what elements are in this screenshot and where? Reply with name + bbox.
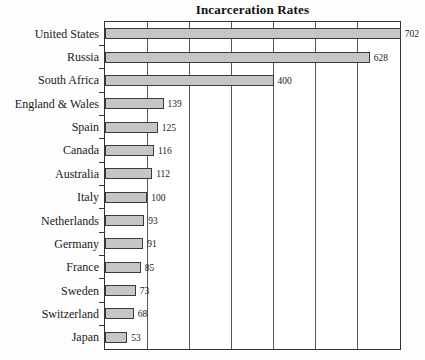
bar	[105, 262, 141, 273]
bar	[105, 332, 127, 343]
category-label: United States	[0, 27, 99, 41]
category-label: Germany	[0, 237, 99, 251]
category-label: Russia	[0, 50, 99, 64]
value-label: 112	[156, 169, 170, 179]
bar	[105, 145, 154, 156]
category-label: Japan	[0, 330, 99, 344]
gridline	[231, 22, 232, 349]
bar	[105, 98, 164, 109]
axis-tick	[99, 185, 104, 186]
category-label: Italy	[0, 190, 99, 204]
bar	[105, 75, 274, 86]
bar	[105, 168, 152, 179]
value-label: 73	[140, 286, 150, 296]
category-label: Sweden	[0, 284, 99, 298]
bar	[105, 215, 144, 226]
gridline	[357, 22, 358, 349]
axis-tick	[99, 92, 104, 93]
value-label: 85	[145, 263, 155, 273]
gridline	[273, 22, 274, 349]
category-label: England & Wales	[0, 97, 99, 111]
plot-area: 702628400139125116112100939185736853	[104, 21, 401, 350]
bar	[105, 122, 158, 133]
axis-tick	[99, 325, 104, 326]
value-label: 116	[158, 146, 172, 156]
value-label: 53	[131, 333, 141, 343]
value-label: 139	[168, 99, 182, 109]
value-label: 100	[151, 193, 165, 203]
value-label: 702	[405, 29, 419, 39]
category-label: Canada	[0, 143, 99, 157]
category-label: Spain	[0, 120, 99, 134]
category-label: South Africa	[0, 73, 99, 87]
value-label: 400	[278, 76, 292, 86]
chart-title: Incarceration Rates	[104, 2, 401, 18]
axis-tick	[99, 45, 104, 46]
axis-tick	[99, 208, 104, 209]
value-label: 93	[148, 216, 158, 226]
axis-tick	[99, 115, 104, 116]
bar	[105, 28, 401, 39]
incarceration-rates-chart: Incarceration Rates 70262840013912511611…	[0, 0, 425, 360]
axis-tick	[99, 162, 104, 163]
axis-tick	[99, 232, 104, 233]
axis-tick	[99, 278, 104, 279]
axis-tick	[99, 138, 104, 139]
category-label: Australia	[0, 167, 99, 181]
axis-tick	[99, 68, 104, 69]
value-label: 68	[138, 309, 148, 319]
category-label: France	[0, 260, 99, 274]
bar	[105, 285, 136, 296]
category-label: Netherlands	[0, 214, 99, 228]
gridline	[189, 22, 190, 349]
gridline	[315, 22, 316, 349]
bar	[105, 192, 147, 203]
axis-tick	[99, 302, 104, 303]
bar	[105, 52, 370, 63]
value-label: 91	[147, 239, 157, 249]
bar	[105, 238, 143, 249]
gridline	[147, 22, 148, 349]
value-label: 628	[374, 53, 388, 63]
bar	[105, 308, 134, 319]
axis-tick	[99, 255, 104, 256]
value-label: 125	[162, 123, 176, 133]
category-label: Switzerland	[0, 307, 99, 321]
